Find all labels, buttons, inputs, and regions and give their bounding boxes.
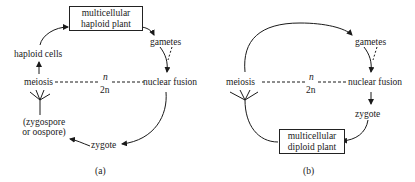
haploid-plant-line2: haploid plant xyxy=(73,19,139,30)
diploid-plant-box: multicellular diploid plant xyxy=(279,129,345,154)
spore-line1: (zygospore xyxy=(16,117,72,127)
ploidy-n-label-b: n xyxy=(309,72,314,82)
haploid-plant-box: multicellular haploid plant xyxy=(69,6,143,31)
haploid-cells-label: haploid cells xyxy=(14,49,62,59)
nuclear-fusion-label-a: nuclear fusion xyxy=(143,77,197,87)
ploidy-2n-label-a: 2n xyxy=(100,85,110,95)
spore-label: (zygospore or oospore) xyxy=(16,117,72,137)
caption-a: (a) xyxy=(95,166,106,176)
ploidy-n-label-a: n xyxy=(103,72,108,82)
gametes-label-a: gametes xyxy=(150,37,181,47)
meiosis-label-b: meiosis xyxy=(226,77,255,87)
zygote-label-a: zygote xyxy=(91,140,116,150)
diploid-plant-line2: diploid plant xyxy=(283,142,341,153)
haploid-plant-line1: multicellular xyxy=(73,8,139,19)
ploidy-2n-label-b: 2n xyxy=(306,85,316,95)
gametes-label-b: gametes xyxy=(355,37,386,47)
diploid-plant-line1: multicellular xyxy=(283,131,341,142)
nuclear-fusion-label-b: nuclear fusion xyxy=(348,77,402,87)
life-cycle-diagram-arrows xyxy=(0,0,415,182)
zygote-label-b: zygote xyxy=(355,109,380,119)
caption-b: (b) xyxy=(303,166,314,176)
meiosis-label-a: meiosis xyxy=(24,77,53,87)
spore-line2: or oospore) xyxy=(16,127,72,137)
